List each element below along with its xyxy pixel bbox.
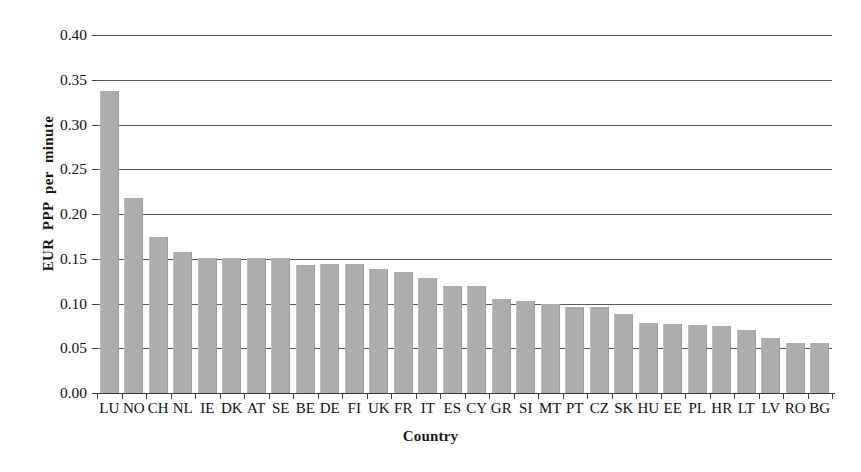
bar (786, 343, 805, 393)
bar (198, 258, 217, 393)
bar (418, 278, 437, 393)
bar (810, 343, 829, 393)
x-axis-tick-label: SE (272, 400, 290, 417)
bar (271, 258, 290, 393)
x-axis-tick-label: GR (491, 400, 512, 417)
x-axis-tick-label: MT (539, 400, 562, 417)
bar (394, 272, 413, 393)
x-axis-tick-mark (808, 394, 809, 399)
bar (737, 330, 756, 393)
x-axis-tick-mark (685, 394, 686, 399)
x-axis-tick-mark (244, 394, 245, 399)
x-axis-tick-label: PL (688, 400, 706, 417)
x-axis-tick-label: FR (394, 400, 412, 417)
y-axis-tick-label: 0.15 (29, 250, 87, 268)
bar (247, 258, 266, 393)
bar (345, 264, 364, 393)
x-axis-tick-mark (367, 394, 368, 399)
x-axis-tick-mark (734, 394, 735, 399)
x-axis-tick-label: CZ (590, 400, 609, 417)
x-axis-tick-mark (514, 394, 515, 399)
bar (516, 301, 535, 393)
x-axis-tick-mark (538, 394, 539, 399)
x-axis-tick-mark (612, 394, 613, 399)
x-axis-tick-mark (195, 394, 196, 399)
bar (173, 252, 192, 393)
plot-area (97, 35, 832, 393)
y-axis-tick-mark (92, 35, 97, 36)
x-axis-tick-label: UK (368, 400, 390, 417)
y-axis-tick-label: 0.35 (29, 71, 87, 89)
y-axis-title: EUR PPP per minute (40, 74, 57, 314)
x-axis-tick-label: BG (809, 400, 830, 417)
x-axis-tick-label: LU (99, 400, 119, 417)
bar (296, 265, 315, 393)
x-axis-tick-label: NL (173, 400, 193, 417)
x-axis-tick-mark (440, 394, 441, 399)
x-axis-tick-mark (783, 394, 784, 399)
x-axis-tick-label: AT (247, 400, 265, 417)
x-axis-tick-label: RO (785, 400, 806, 417)
x-axis-tick-mark (710, 394, 711, 399)
x-axis-tick-mark (832, 394, 833, 399)
x-axis-tick-label: DK (221, 400, 243, 417)
x-axis-tick-label: ES (443, 400, 461, 417)
x-axis-tick-label: FI (348, 400, 361, 417)
bar (761, 338, 780, 393)
y-axis-tick-mark (92, 259, 97, 260)
x-axis-tick-mark (563, 394, 564, 399)
y-axis-tick-label: 0.25 (29, 160, 87, 178)
x-axis-tick-label: HR (711, 400, 732, 417)
x-axis-tick-mark (171, 394, 172, 399)
x-axis-tick-mark (465, 394, 466, 399)
bar (100, 91, 119, 394)
y-axis-tick-label: 0.05 (29, 339, 87, 357)
x-axis-tick-mark (122, 394, 123, 399)
bar (688, 325, 707, 393)
x-axis-tick-label: LV (761, 400, 780, 417)
x-axis-tick-label: PT (566, 400, 584, 417)
x-axis-tick-label: NO (123, 400, 145, 417)
x-axis-tick-mark (220, 394, 221, 399)
bar-series (97, 35, 832, 393)
x-axis-tick-mark (146, 394, 147, 399)
y-axis-tick-mark (92, 304, 97, 305)
x-axis-tick-mark (391, 394, 392, 399)
y-axis-tick-mark (92, 125, 97, 126)
x-axis-tick-label: HU (637, 400, 659, 417)
bar (124, 198, 143, 393)
x-axis-tick-label: SK (614, 400, 633, 417)
y-axis-tick-label: 0.40 (29, 26, 87, 44)
x-axis-tick-label: BE (296, 400, 315, 417)
bar (614, 314, 633, 393)
y-axis-tick-mark (92, 348, 97, 349)
y-axis-tick-label: 0.00 (29, 384, 87, 402)
y-axis-tick-mark (92, 80, 97, 81)
bar (320, 264, 339, 393)
x-axis-tick-mark (636, 394, 637, 399)
x-axis-tick-mark (416, 394, 417, 399)
y-axis-tick-label: 0.10 (29, 295, 87, 313)
x-axis-tick-mark (661, 394, 662, 399)
x-axis-tick-mark (293, 394, 294, 399)
x-axis-title: Country (0, 428, 861, 445)
x-axis-tick-label: CH (148, 400, 169, 417)
bar (467, 286, 486, 393)
x-axis-tick-label: EE (664, 400, 682, 417)
x-axis-tick-label: CY (466, 400, 487, 417)
x-axis-tick-mark (269, 394, 270, 399)
bar (712, 326, 731, 393)
x-axis-tick-mark (342, 394, 343, 399)
y-axis-tick-mark (92, 214, 97, 215)
y-axis-tick-mark (92, 169, 97, 170)
bar (663, 324, 682, 393)
bar (639, 323, 658, 393)
chart-figure: EUR PPP per minute 0.400.350.300.250.200… (0, 0, 861, 472)
x-axis-tick-mark (97, 394, 98, 399)
x-axis-tick-label: IT (421, 400, 435, 417)
x-axis-tick-mark (489, 394, 490, 399)
x-axis-tick-label: LT (738, 400, 755, 417)
bar (222, 258, 241, 393)
bar (149, 237, 168, 393)
x-axis-tick-mark (318, 394, 319, 399)
